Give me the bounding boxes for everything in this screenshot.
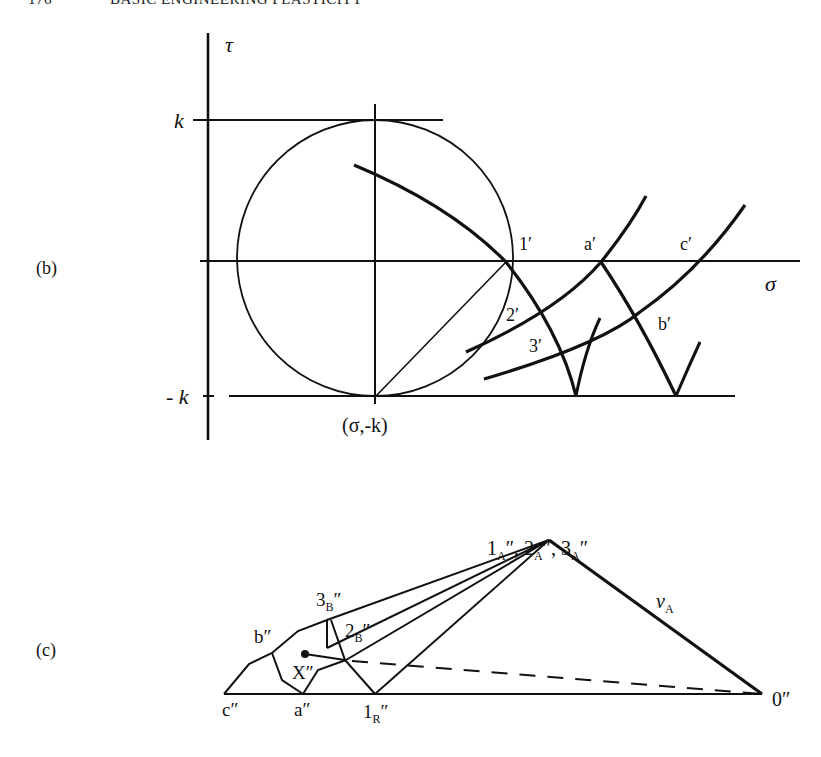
- label-3b: 3B″: [316, 589, 341, 614]
- reflect-line-2: [676, 342, 700, 396]
- pole-chord: [376, 262, 506, 396]
- pole-label: (σ,-k): [342, 414, 388, 437]
- point-a-label: a′: [584, 234, 596, 254]
- sigma-axis-label: σ: [765, 271, 777, 296]
- velocity-a-line: [549, 540, 762, 694]
- point-b-label: b′: [658, 314, 671, 334]
- label-2b: 2B″: [345, 620, 370, 645]
- panel-b-diagram: [193, 33, 800, 440]
- label-b: b″: [254, 626, 271, 647]
- reflect-line-1: [576, 318, 600, 396]
- point-c-label: c′: [680, 234, 692, 254]
- label-velocity-a: νA: [656, 590, 674, 616]
- k-label: k: [174, 108, 185, 133]
- label-x: X″: [292, 662, 314, 683]
- neg-k-label: - k: [166, 384, 190, 409]
- point-2-label: 2′: [506, 305, 519, 325]
- label-1r: 1R″: [363, 701, 388, 726]
- label-origin: 0″: [772, 688, 790, 710]
- tau-axis-label: τ: [225, 32, 234, 57]
- beta-line-c: [484, 205, 745, 379]
- x-dashed-line: [352, 661, 762, 694]
- apex-label: 1A″, 2A″, 3A″: [487, 537, 588, 563]
- figure-canvas: τ σ k - k (σ,-k) 1′ a′ c′ 2′ 3′ b′ 1A″, …: [0, 0, 821, 757]
- point-3-label: 3′: [529, 336, 542, 356]
- x-solid-segment: [305, 654, 345, 660]
- label-c: c″: [222, 699, 238, 720]
- point-1-label: 1′: [519, 234, 532, 254]
- label-a: a″: [294, 699, 310, 720]
- ray-1r: [375, 540, 549, 694]
